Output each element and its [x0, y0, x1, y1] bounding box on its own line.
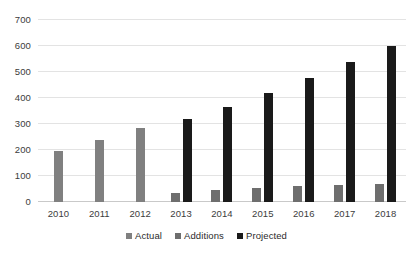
x-axis-tick-label: 2017 [324, 208, 365, 219]
bar-additions-2016[interactable] [293, 186, 302, 202]
bar-projected-2014[interactable] [223, 107, 232, 202]
x-axis-tick-label: 2016 [283, 208, 324, 219]
x-axis-tick-label: 2015 [242, 208, 283, 219]
bar-group: 2012 [120, 20, 161, 202]
bar-stack [242, 20, 283, 202]
x-axis-tick-label: 2011 [79, 208, 120, 219]
plot-area: 0100200300400500600700201020112012201320… [38, 20, 406, 202]
bar-stack [79, 20, 120, 202]
bar-additions-2015[interactable] [252, 188, 261, 202]
bar-additions-2013[interactable] [171, 193, 180, 202]
bar-group: 2016 [283, 20, 324, 202]
bar-projected-2017[interactable] [346, 62, 355, 202]
bar-group: 2014 [202, 20, 243, 202]
bar-additions-2017[interactable] [334, 185, 343, 202]
x-axis-tick-label: 2013 [161, 208, 202, 219]
bar-projected-2018[interactable] [387, 46, 396, 202]
bar-group: 2018 [365, 20, 406, 202]
legend-swatch-icon [126, 233, 132, 239]
y-axis-tick-label: 500 [15, 66, 31, 77]
bar-actual-2010[interactable] [54, 151, 63, 202]
bar-group: 2013 [161, 20, 202, 202]
legend-item-actual[interactable]: Actual [126, 230, 162, 241]
bar-projected-2013[interactable] [183, 119, 192, 202]
legend-label: Actual [135, 230, 162, 241]
y-axis-tick-label: 700 [15, 14, 31, 25]
y-axis-tick-label: 100 [15, 170, 31, 181]
bar-group: 2017 [324, 20, 365, 202]
y-axis-tick-label: 200 [15, 144, 31, 155]
x-axis-tick-label: 2014 [202, 208, 243, 219]
y-axis-tick-label: 0 [26, 196, 31, 207]
bar-projected-2016[interactable] [305, 78, 314, 202]
bar-stack [161, 20, 202, 202]
chart-legend: ActualAdditionsProjected [0, 230, 413, 241]
bar-stack [365, 20, 406, 202]
x-axis-tick-label: 2010 [38, 208, 79, 219]
legend-swatch-icon [237, 233, 243, 239]
bar-projected-2015[interactable] [264, 93, 273, 202]
bar-additions-2014[interactable] [211, 190, 220, 202]
bar-group: 2015 [242, 20, 283, 202]
bar-stack [283, 20, 324, 202]
bar-actual-2012[interactable] [136, 128, 145, 202]
x-axis-tick-label: 2012 [120, 208, 161, 219]
legend-item-additions[interactable]: Additions [175, 230, 224, 241]
bar-stack [38, 20, 79, 202]
legend-item-projected[interactable]: Projected [237, 230, 287, 241]
x-axis-tick-label: 2018 [365, 208, 406, 219]
legend-swatch-icon [175, 233, 181, 239]
bar-group: 2011 [79, 20, 120, 202]
bar-actual-2011[interactable] [95, 140, 104, 202]
bar-stack [324, 20, 365, 202]
y-axis-tick-label: 600 [15, 40, 31, 51]
bar-group: 2010 [38, 20, 79, 202]
y-axis-tick-label: 300 [15, 118, 31, 129]
bar-additions-2018[interactable] [375, 184, 384, 202]
y-axis-tick-label: 400 [15, 92, 31, 103]
legend-label: Additions [184, 230, 224, 241]
bar-chart: 0100200300400500600700201020112012201320… [0, 0, 413, 261]
bar-stack [120, 20, 161, 202]
bar-stack [202, 20, 243, 202]
legend-label: Projected [246, 230, 287, 241]
